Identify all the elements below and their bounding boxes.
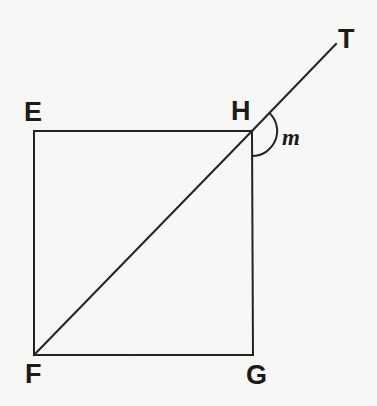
segment-FH-diagonal: [34, 131, 252, 355]
segment-GH: [252, 131, 253, 355]
geometry-diagram: E F G H T m: [0, 0, 377, 406]
vertex-label-g: G: [246, 362, 267, 389]
vertex-label-h: H: [231, 98, 251, 125]
vertex-label-e: E: [24, 99, 42, 126]
angle-arc-m: [252, 113, 277, 156]
vertex-label-t: T: [338, 26, 355, 53]
vertex-label-f: F: [25, 361, 42, 388]
angle-label-m: m: [282, 126, 300, 149]
ray-HT: [252, 44, 336, 131]
figure-canvas: [0, 0, 377, 406]
